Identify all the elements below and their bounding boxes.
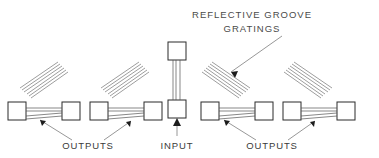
grating-4	[284, 62, 332, 98]
outputs-label-left: OUTPUTS	[62, 140, 114, 151]
channel-1-left-box	[8, 102, 26, 120]
input-top-box	[168, 42, 186, 60]
output-leader-1	[40, 120, 72, 140]
channel-2-left-box	[90, 102, 108, 120]
input-leader-arrow-icon	[173, 118, 181, 126]
title-leader	[231, 36, 282, 78]
title-line-1: REFLECTIVE GROOVE	[192, 9, 312, 20]
figure-canvas: REFLECTIVE GROOVE GRATINGS	[0, 0, 379, 158]
output-leader-4	[288, 121, 315, 140]
channel-3-right-box	[255, 102, 273, 120]
output-channel-3	[201, 102, 273, 120]
output-channel-4	[283, 102, 355, 120]
reflective-groove-gratings-diagram: REFLECTIVE GROOVE GRATINGS	[0, 0, 379, 158]
channel-4-right-box	[337, 102, 355, 120]
channel-3-left-box	[201, 102, 219, 120]
output-channel-2	[90, 102, 162, 120]
input-label: INPUT	[161, 140, 194, 151]
input-bottom-box	[168, 100, 186, 118]
grating-2	[101, 62, 149, 98]
input-channel	[168, 42, 186, 118]
grating-3	[202, 62, 250, 98]
output-leader-2	[104, 121, 131, 140]
outputs-label-right: OUTPUTS	[246, 140, 298, 151]
output-leader-3	[224, 120, 256, 140]
channel-1-right-box	[62, 102, 80, 120]
input-leader	[173, 118, 181, 136]
channel-2-right-box	[144, 102, 162, 120]
output-channel-1	[8, 102, 80, 120]
title-line-2: GRATINGS	[224, 23, 281, 34]
grating-1	[20, 62, 68, 98]
channel-4-left-box	[283, 102, 301, 120]
